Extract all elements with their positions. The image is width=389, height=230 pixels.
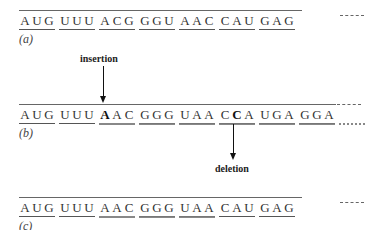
nucleotide: G <box>151 200 163 216</box>
nucleotide: A <box>203 107 215 123</box>
nucleotide: U <box>83 107 95 123</box>
nucleotide: U <box>243 13 255 29</box>
nucleotide: U <box>71 107 83 123</box>
insertion-label: insertion <box>80 53 118 64</box>
nucleotide: G <box>283 13 295 29</box>
nucleotide: U <box>59 13 71 29</box>
nucleotide: A <box>283 107 295 123</box>
deleted-nucleotide: C <box>231 107 243 123</box>
nucleotide: C <box>123 107 135 123</box>
insertion-arrow-icon <box>100 96 106 103</box>
nucleotide: G <box>283 200 295 216</box>
deletion-label: deletion <box>215 163 249 174</box>
nucleotide: U <box>163 13 175 29</box>
nucleotide: G <box>163 107 175 123</box>
codon-underline <box>259 216 295 217</box>
nucleotide: G <box>123 13 135 29</box>
nucleotide: U <box>31 200 43 216</box>
nucleotide: A <box>231 13 243 29</box>
nucleotide: G <box>163 200 175 216</box>
nucleotide: A <box>99 13 111 29</box>
codon-underline <box>99 29 135 30</box>
nucleotide: A <box>203 200 215 216</box>
nucleotide: G <box>259 200 271 216</box>
nucleotide: U <box>243 200 255 216</box>
insertion-arrow-shaft <box>103 66 104 98</box>
strand-overline <box>19 197 302 198</box>
nucleotide: G <box>271 107 283 123</box>
strand-overline <box>19 104 336 105</box>
codon-underline <box>99 216 135 218</box>
codon-underline <box>219 29 255 30</box>
nucleotide: U <box>83 13 95 29</box>
nucleotide: U <box>71 200 83 216</box>
nucleotide: U <box>83 200 95 216</box>
nucleotide: U <box>31 107 43 123</box>
codon-underline <box>139 29 175 30</box>
nucleotide: A <box>231 200 243 216</box>
continuation-dashes <box>340 202 364 203</box>
nucleotide: U <box>59 107 71 123</box>
nucleotide: A <box>19 200 31 216</box>
shifted-codon-underline <box>259 123 295 125</box>
continuation-dashes <box>337 104 361 105</box>
nucleotide: A <box>99 200 111 216</box>
nucleotide: G <box>259 13 271 29</box>
shifted-codon-underline <box>139 123 175 125</box>
codon-underline <box>139 216 175 218</box>
nucleotide: A <box>191 13 203 29</box>
continuation-dashes <box>340 15 364 16</box>
nucleotide: A <box>191 107 203 123</box>
nucleotide: G <box>311 107 323 123</box>
nucleotide: A <box>243 107 255 123</box>
nucleotide: G <box>43 107 55 123</box>
nucleotide: A <box>323 107 335 123</box>
nucleotide: G <box>139 107 151 123</box>
codon-underline <box>219 216 255 217</box>
deletion-arrow-icon <box>230 153 236 160</box>
nucleotide: G <box>139 200 151 216</box>
nucleotide: G <box>151 13 163 29</box>
nucleotide: C <box>111 13 123 29</box>
codon-underline <box>59 216 95 217</box>
nucleotide: A <box>19 107 31 123</box>
inserted-nucleotide: A <box>99 107 111 123</box>
codon-underline <box>59 29 95 30</box>
nucleotide: A <box>111 107 123 123</box>
nucleotide: A <box>271 13 283 29</box>
nucleotide: A <box>191 200 203 216</box>
strand-overline <box>19 10 302 11</box>
nucleotide: U <box>71 13 83 29</box>
nucleotide: A <box>179 13 191 29</box>
nucleotide: A <box>271 200 283 216</box>
nucleotide: U <box>59 200 71 216</box>
continuation-dashes <box>339 123 365 125</box>
row-label-a: (a) <box>19 32 33 47</box>
shifted-codon-underline <box>179 123 215 125</box>
nucleotide: G <box>151 107 163 123</box>
nucleotide: U <box>259 107 271 123</box>
nucleotide: A <box>19 13 31 29</box>
nucleotide: U <box>31 13 43 29</box>
shifted-codon-underline <box>99 123 135 125</box>
nucleotide: C <box>219 107 231 123</box>
row-label-c: (c) <box>19 219 32 230</box>
nucleotide: U <box>179 200 191 216</box>
nucleotide: G <box>299 107 311 123</box>
nucleotide: A <box>111 200 123 216</box>
nucleotide: G <box>43 200 55 216</box>
nucleotide: C <box>219 13 231 29</box>
shifted-codon-underline <box>299 123 335 125</box>
codon-underline <box>179 29 215 30</box>
codon-underline <box>59 123 95 124</box>
codon-underline <box>179 216 215 218</box>
row-label-b: (b) <box>19 126 33 141</box>
nucleotide: G <box>43 13 55 29</box>
codon-underline <box>19 123 55 124</box>
codon-underline <box>259 29 295 30</box>
codon-underline <box>19 216 55 217</box>
shifted-codon-underline <box>219 123 255 125</box>
nucleotide: C <box>219 200 231 216</box>
nucleotide: C <box>123 200 135 216</box>
nucleotide: C <box>203 13 215 29</box>
